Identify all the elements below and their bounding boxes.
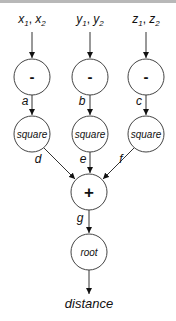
node-square-y: square <box>72 116 108 152</box>
svg-text:-: - <box>144 68 149 85</box>
svg-text:square: square <box>75 129 106 140</box>
node-square-z: square <box>128 116 164 152</box>
edge-label-g: g <box>77 211 84 225</box>
node-subtract-z: - <box>128 59 164 95</box>
node-subtract-y: - <box>72 59 108 95</box>
edge-label-e: e <box>80 152 87 166</box>
edge-label-b: b <box>79 94 86 108</box>
svg-text:-: - <box>30 68 35 85</box>
edge-label-d: d <box>35 152 42 166</box>
input-label-z: z1, z2 <box>131 12 160 28</box>
node-subtract-x: - <box>14 59 50 95</box>
svg-text:+: + <box>84 183 94 202</box>
edge-label-a: a <box>22 94 29 108</box>
edge-d <box>44 148 75 179</box>
node-sum: + <box>71 174 107 210</box>
input-label-x: x1, x2 <box>17 12 46 28</box>
output-label: distance <box>65 296 113 311</box>
node-root: root <box>71 234 107 270</box>
svg-text:square: square <box>17 129 48 140</box>
svg-text:square: square <box>131 129 162 140</box>
edge-label-c: c <box>136 94 142 108</box>
input-label-y: y1, y2 <box>75 12 104 28</box>
svg-text:root: root <box>80 247 98 258</box>
node-square-x: square <box>14 116 50 152</box>
computation-graph: x1, x2 y1, y2 z1, z2 - - - a b c square … <box>0 0 176 321</box>
svg-text:-: - <box>88 68 93 85</box>
